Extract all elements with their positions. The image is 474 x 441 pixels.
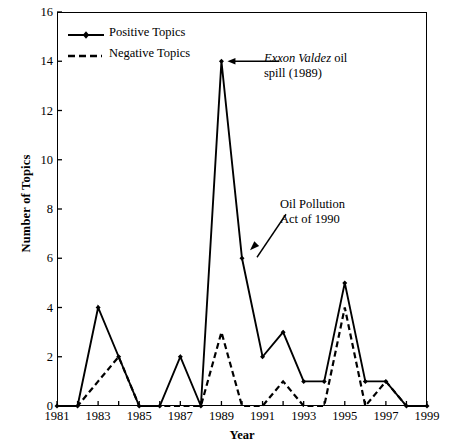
data-point-marker [342,280,347,285]
legend-swatch-dashed-line-icon [66,48,106,60]
annotation-arrow-exxon-head [227,58,235,64]
annotation-exxon-rest: oil [331,51,347,65]
annotation-opa-line2: Act of 1990 [280,212,345,227]
annotation-exxon-line2: spill (1989) [264,66,347,81]
legend-item-positive-topics: Positive Topics [66,22,226,43]
annotation-oil-pollution-act: Oil Pollution Act of 1990 [280,197,345,227]
data-point-marker [322,379,327,384]
chart-container: 0246810121416 Number of Topics 198119831… [0,0,474,441]
data-series-positive-topics [57,61,427,406]
chart-legend: Positive Topics Negative Topics [66,22,226,64]
data-point-marker [363,379,368,384]
data-point-marker [240,256,245,261]
data-series-negative-topics [57,308,427,407]
annotation-exxon-italic: Exxon Valdez [264,51,331,65]
legend-item-negative-topics: Negative Topics [66,43,226,64]
annotation-arrow-opa-head [250,241,259,250]
chart-plot-area [0,0,474,441]
annotation-exxon-valdez: Exxon Valdez oil spill (1989) [264,51,347,81]
legend-label-negative-topics: Negative Topics [106,47,190,60]
legend-label-positive-topics: Positive Topics [106,26,185,39]
annotation-opa-line1: Oil Pollution [280,197,345,212]
legend-swatch-solid-line-icon [66,27,106,39]
